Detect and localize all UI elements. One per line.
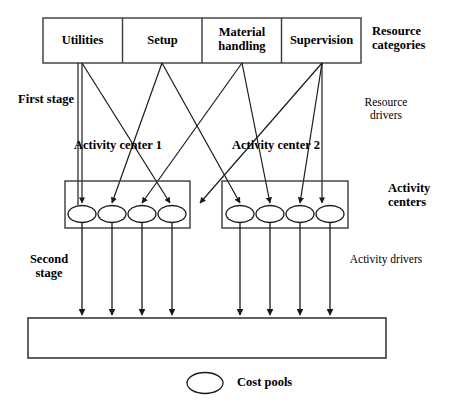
two-stage-cost-allocation-diagram: Utilities Setup Material handling Superv… [0, 0, 460, 415]
cost-pool-oval [68, 206, 96, 223]
resource-driver-arrows [82, 63, 322, 203]
resource-category-label-setup: Setup [123, 33, 202, 47]
cost-pool-oval [98, 206, 126, 223]
activity-drivers-label: Activity drivers [349, 253, 423, 266]
cost-object-box [28, 318, 386, 358]
resource-categories-group-label: Resource categories [372, 24, 458, 52]
cost-pool-oval [286, 206, 314, 223]
first-stage-label: First stage [18, 92, 74, 106]
resource-category-label-material-handling: Material handling [203, 25, 281, 53]
cost-pool-oval [316, 206, 344, 223]
resource-drivers-label: Resource drivers [349, 96, 423, 122]
legend-label-cost-pools: Cost pools [237, 375, 292, 389]
resource-category-label-utilities: Utilities [43, 33, 122, 47]
cost-pool-oval [256, 206, 284, 223]
activity-driver-arrows [82, 222, 330, 315]
second-stage-label: Second stage [18, 252, 80, 280]
activity-centers-group-label: Activity centers [388, 181, 458, 209]
legend-oval-icon [187, 373, 223, 394]
activity-center-2-label: Activity center 2 [232, 138, 320, 152]
activity-center-1-label: Activity center 1 [74, 138, 162, 152]
cost-pool-ovals [68, 206, 344, 223]
resource-category-label-supervision: Supervision [282, 33, 361, 47]
cost-pool-oval [128, 206, 156, 223]
cost-pool-oval [158, 206, 186, 223]
cost-pool-oval [226, 206, 254, 223]
